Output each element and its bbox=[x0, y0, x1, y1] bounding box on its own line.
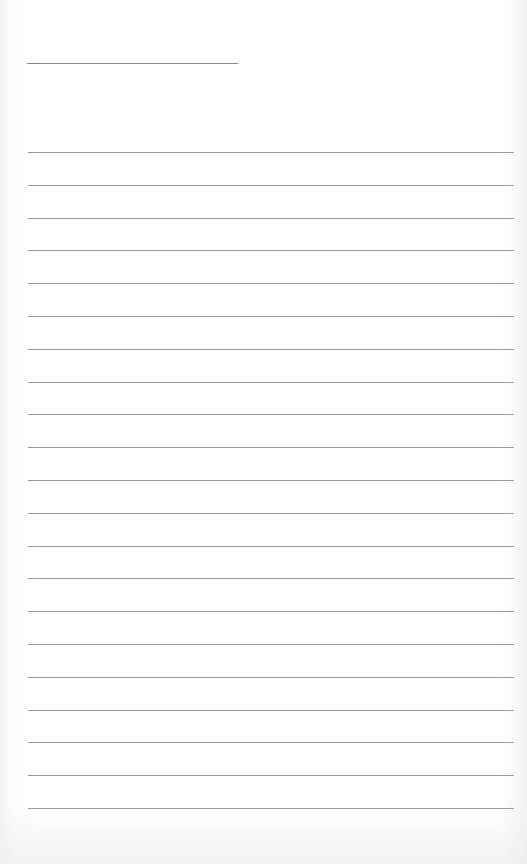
ruled-line bbox=[28, 710, 514, 711]
ruled-line bbox=[28, 578, 514, 579]
ruled-line bbox=[28, 480, 514, 481]
ruled-line bbox=[28, 185, 514, 186]
ruled-line bbox=[28, 283, 514, 284]
ruled-line bbox=[28, 218, 514, 219]
lined-paper bbox=[0, 0, 527, 864]
ruled-line bbox=[28, 447, 514, 448]
bottom-shadow bbox=[0, 804, 527, 864]
ruled-line bbox=[28, 382, 514, 383]
ruled-line bbox=[28, 250, 514, 251]
ruled-line bbox=[28, 611, 514, 612]
ruled-line bbox=[28, 513, 514, 514]
title-line bbox=[27, 63, 238, 64]
ruled-line bbox=[28, 349, 514, 350]
ruled-line bbox=[28, 546, 514, 547]
ruled-line bbox=[28, 152, 514, 153]
ruled-line bbox=[28, 775, 514, 776]
ruled-line bbox=[28, 742, 514, 743]
ruled-line bbox=[28, 316, 514, 317]
ruled-line bbox=[28, 677, 514, 678]
ruled-line bbox=[28, 414, 514, 415]
ruled-line bbox=[28, 644, 514, 645]
